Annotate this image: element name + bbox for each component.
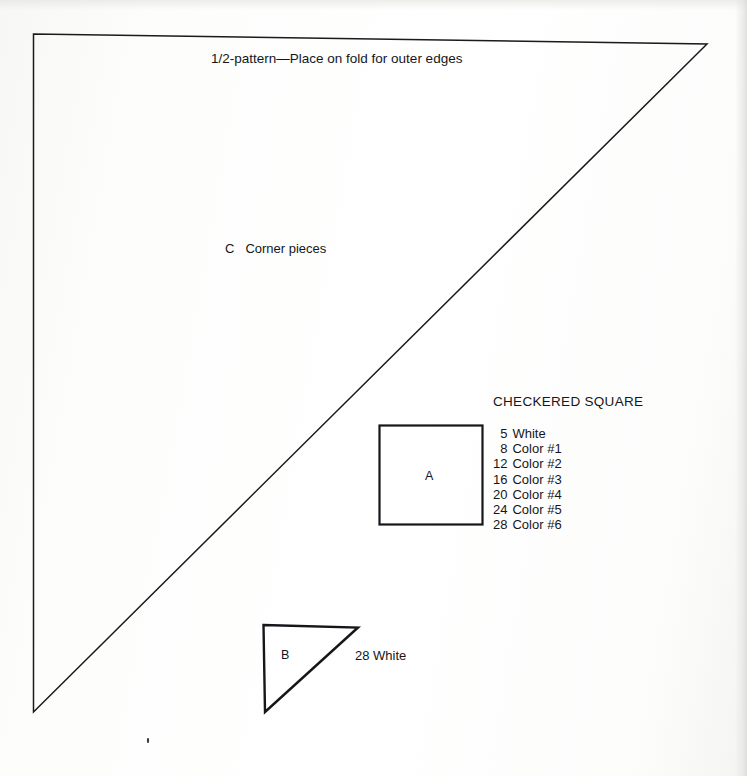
legend-row-name: White bbox=[512, 426, 561, 441]
triangle-b-outline bbox=[264, 625, 359, 712]
checkered-square-legend: CHECKERED SQUARE 5White8Color #112Color … bbox=[493, 394, 643, 532]
legend-row: 28Color #6 bbox=[493, 517, 562, 532]
legend-row-name: Color #3 bbox=[512, 472, 561, 487]
legend-row-name: Color #5 bbox=[512, 502, 561, 517]
pattern-title: 1/2-pattern—Place on fold for outer edge… bbox=[211, 52, 462, 66]
pattern-page: 1/2-pattern—Place on fold for outer edge… bbox=[0, 0, 747, 776]
triangle-b-quantity: 28 White bbox=[355, 649, 406, 662]
legend-row: 12Color #2 bbox=[493, 456, 562, 471]
corner-piece-label: CCorner pieces bbox=[225, 242, 326, 255]
triangle-b-code: B bbox=[281, 649, 289, 662]
legend-row: 8Color #1 bbox=[493, 441, 562, 456]
legend-row: 5White bbox=[493, 426, 562, 441]
legend-row-quantity: 8 bbox=[493, 441, 512, 456]
legend-row: 16Color #3 bbox=[493, 472, 562, 487]
legend-row-name: Color #2 bbox=[512, 456, 561, 471]
legend-title: CHECKERED SQUARE bbox=[493, 394, 643, 409]
corner-piece-name: Corner pieces bbox=[245, 241, 326, 256]
legend-row: 20Color #4 bbox=[493, 487, 562, 502]
legend-row-quantity: 5 bbox=[493, 426, 512, 441]
legend-row-name: Color #6 bbox=[512, 517, 561, 532]
legend-row-quantity: 12 bbox=[493, 456, 512, 471]
legend-rows: 5White8Color #112Color #216Color #320Col… bbox=[493, 426, 562, 532]
legend-row-name: Color #4 bbox=[512, 487, 561, 502]
legend-row-quantity: 16 bbox=[493, 472, 512, 487]
legend-row-quantity: 28 bbox=[493, 517, 512, 532]
scan-artifact-speck bbox=[147, 738, 149, 743]
square-a-code: A bbox=[425, 470, 433, 483]
legend-row-name: Color #1 bbox=[512, 441, 561, 456]
corner-piece-triangle-outline bbox=[34, 34, 708, 712]
corner-piece-code: C bbox=[225, 241, 234, 256]
legend-row: 24Color #5 bbox=[493, 502, 562, 517]
legend-row-quantity: 20 bbox=[493, 487, 512, 502]
legend-row-quantity: 24 bbox=[493, 502, 512, 517]
